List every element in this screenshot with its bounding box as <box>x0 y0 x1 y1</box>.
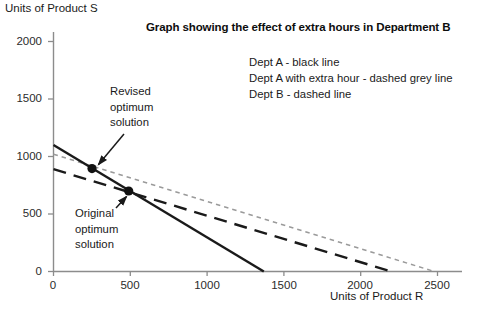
annotation-arrow-revised <box>99 134 125 165</box>
data-point-revised-optimum <box>87 164 96 173</box>
series-line-dept-a <box>54 145 264 272</box>
data-point-original-optimum <box>124 186 133 195</box>
y-tick-marks <box>48 42 53 272</box>
series-line-dept-b <box>54 169 392 271</box>
series-line-dept-a-extra-hour <box>54 154 435 271</box>
plot-canvas <box>0 0 478 316</box>
annotation-arrow-original <box>116 197 127 209</box>
chart-figure: Units of Product S Units of Product R Gr… <box>0 0 478 316</box>
